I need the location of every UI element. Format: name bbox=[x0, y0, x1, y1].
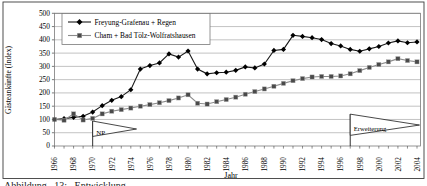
series-1-marker bbox=[100, 112, 104, 116]
y-tick-label: 350 bbox=[39, 49, 50, 58]
legend-label-1: Cham + Bad Tölz-Wolfratshausen bbox=[95, 31, 196, 40]
y-tick-label: 450 bbox=[39, 22, 50, 31]
series-1-marker bbox=[52, 117, 56, 121]
series-1-marker bbox=[224, 97, 228, 101]
figure-caption: Abbildung 13: Entwicklung bbox=[4, 180, 384, 186]
x-tick-label: 1996 bbox=[337, 157, 345, 172]
series-1-marker bbox=[138, 104, 142, 108]
series-1-marker bbox=[195, 101, 199, 105]
x-tick-label: 1974 bbox=[128, 157, 136, 172]
x-tick-label: 1988 bbox=[261, 157, 269, 172]
y-tick-label: 400 bbox=[39, 35, 50, 44]
x-tick-label: 1998 bbox=[357, 157, 365, 172]
x-tick-label: 1980 bbox=[185, 157, 193, 172]
x-axis-title: Jahr bbox=[224, 171, 238, 180]
series-1-marker bbox=[71, 112, 75, 116]
series-1-marker bbox=[176, 96, 180, 100]
series-1-marker bbox=[358, 69, 362, 73]
series-1-marker bbox=[253, 89, 257, 93]
y-tick-label: 0 bbox=[46, 141, 50, 150]
y-tick-label: 50 bbox=[43, 128, 51, 137]
series-1-marker bbox=[119, 108, 123, 112]
x-tick-label: 1972 bbox=[109, 157, 117, 172]
series-1-marker bbox=[186, 93, 190, 97]
y-tick-label: 250 bbox=[39, 75, 50, 84]
x-tick-label: 1982 bbox=[204, 157, 212, 172]
series-1-marker bbox=[110, 109, 114, 113]
y-tick-label: 100 bbox=[39, 115, 50, 124]
series-1-marker bbox=[148, 102, 152, 106]
y-tick-label: 500 bbox=[39, 9, 50, 18]
series-1-marker bbox=[339, 74, 343, 78]
series-1-marker bbox=[91, 116, 95, 120]
series-1-marker bbox=[310, 75, 314, 79]
series-1-marker bbox=[243, 92, 247, 96]
legend-marker-1 bbox=[77, 33, 82, 38]
series-1-marker bbox=[291, 79, 295, 83]
series-1-marker bbox=[396, 57, 400, 61]
series-1-marker bbox=[62, 118, 66, 122]
series-1-marker bbox=[415, 60, 419, 64]
series-1-marker bbox=[205, 102, 209, 106]
series-1-marker bbox=[272, 84, 276, 88]
chart-canvas: 0501001502002503003504004505001966196819… bbox=[0, 0, 427, 186]
x-tick-label: 2000 bbox=[376, 157, 384, 172]
y-axis-title: Gästeankünfte (Index) bbox=[4, 45, 13, 114]
x-tick-label: 2004 bbox=[414, 157, 422, 172]
flag-label-erweiterung: Erweiterung bbox=[354, 125, 387, 132]
series-1-marker bbox=[167, 99, 171, 103]
series-1-marker bbox=[129, 106, 133, 110]
series-1-marker bbox=[300, 76, 304, 80]
series-1-marker bbox=[81, 118, 85, 122]
y-tick-label: 200 bbox=[39, 88, 50, 97]
series-1-marker bbox=[262, 87, 266, 91]
x-tick-label: 2002 bbox=[395, 157, 403, 172]
series-1-marker bbox=[234, 95, 238, 99]
x-tick-label: 1984 bbox=[223, 157, 231, 172]
series-1-marker bbox=[367, 65, 371, 69]
series-1-marker bbox=[348, 72, 352, 76]
x-tick-label: 1978 bbox=[166, 157, 174, 172]
x-tick-label: 1986 bbox=[242, 157, 250, 172]
x-tick-label: 1966 bbox=[51, 157, 59, 172]
x-tick-label: 1970 bbox=[89, 157, 97, 172]
series-1-marker bbox=[320, 74, 324, 78]
chart-figure: 0501001502002503003504004505001966196819… bbox=[0, 0, 427, 186]
x-tick-label: 1990 bbox=[280, 157, 288, 172]
legend-label-0: Freyung-Grafenau + Regen bbox=[95, 18, 177, 27]
series-1-marker bbox=[157, 101, 161, 105]
series-1-marker bbox=[215, 100, 219, 104]
series-1-marker bbox=[377, 62, 381, 66]
x-tick-label: 1992 bbox=[299, 157, 307, 172]
series-1-marker bbox=[386, 60, 390, 64]
x-tick-label: 1976 bbox=[147, 157, 155, 172]
series-1-marker bbox=[281, 81, 285, 85]
y-tick-label: 150 bbox=[39, 102, 50, 111]
x-tick-label: 1968 bbox=[70, 157, 78, 172]
series-1-marker bbox=[405, 58, 409, 62]
series-1-marker bbox=[329, 74, 333, 78]
x-tick-label: 1994 bbox=[318, 157, 326, 172]
flag-label-np: NP bbox=[96, 129, 105, 137]
y-tick-label: 300 bbox=[39, 62, 50, 71]
